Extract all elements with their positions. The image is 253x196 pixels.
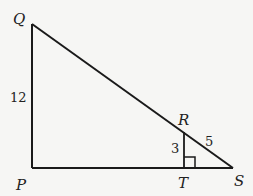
point-label-R: R [177, 111, 189, 129]
diagram-svg: Q P S R T 12 3 5 [0, 0, 253, 196]
point-label-S: S [234, 172, 244, 190]
right-angle-marker [184, 157, 195, 168]
point-label-T: T [178, 174, 189, 192]
segment-QS [32, 24, 233, 168]
point-label-Q: Q [13, 10, 25, 28]
length-label-PQ: 12 [10, 90, 27, 105]
length-label-RT: 3 [171, 141, 179, 156]
triangle-diagram: Q P S R T 12 3 5 [0, 0, 253, 196]
length-label-RS: 5 [205, 134, 213, 149]
point-label-P: P [15, 176, 27, 194]
